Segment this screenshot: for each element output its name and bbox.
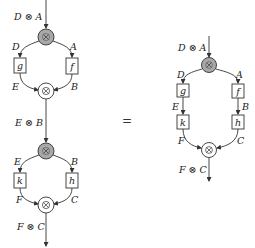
wire-left-top [20,41,39,57]
box-f: f [232,84,244,98]
wire-left-bottom [183,129,201,148]
svg-text:h: h [235,117,241,128]
box-g: g [14,58,26,73]
wire-label-e: E [13,156,21,167]
box-k: k [14,173,26,188]
box-g: g [177,84,189,97]
box-h: h [232,115,244,129]
wire-label-b: B [70,81,78,92]
wire-label-e: E [171,101,179,112]
svg-text:g: g [17,60,23,71]
wire-label-b: B [241,101,249,112]
svg-text:g: g [180,85,186,96]
box-k: k [177,115,189,129]
wire-right-bottom [54,188,72,204]
equals-sign: = [122,114,132,128]
wire-label-b: B [70,156,78,167]
wire-label-d: D [176,69,185,80]
input-label: D ⊗ A [13,11,43,22]
output-label: F ⊗ C [178,164,208,175]
input-label: D ⊗ A [177,42,207,53]
output-label: F ⊗ C [16,221,46,232]
wire-label-a: A [69,41,77,52]
wire-right-top [53,155,72,172]
box-h: h [66,173,78,188]
wire-left-top [20,155,39,172]
wire-left-top [183,69,202,83]
wire-label-c: C [71,194,79,205]
split-node [202,58,217,73]
wire-right-bottom [217,129,238,148]
middle-label: E ⊗ B [14,117,43,128]
wire-label-d: D [11,41,20,52]
string-diagram-equation: D ⊗ A D A g f E B E ⊗ B [0,0,255,248]
svg-text:k: k [180,117,186,128]
merge-node [38,197,54,213]
left-top-block: D ⊗ A D A g f E B E ⊗ B [11,0,78,142]
wire-left-bottom [20,188,38,204]
wire-label-f: F [15,194,23,205]
wire-left-bottom [20,73,38,90]
wire-label-c: C [237,135,245,146]
wire-right-bottom [54,74,72,90]
wire-label-e: E [11,81,19,92]
wire-label-a: A [235,69,243,80]
left-bottom-block: E B k h F C F ⊗ C [13,143,79,246]
split-node [38,143,54,159]
right-diagram: D ⊗ A D A g f E B k h [171,36,249,181]
merge-node [202,143,217,158]
merge-node [38,83,54,99]
box-f: f [66,58,78,74]
wire-label-f: F [177,135,185,146]
svg-text:k: k [17,175,23,186]
wire-right-top [216,69,238,83]
svg-text:h: h [69,175,75,186]
split-node [38,29,54,45]
